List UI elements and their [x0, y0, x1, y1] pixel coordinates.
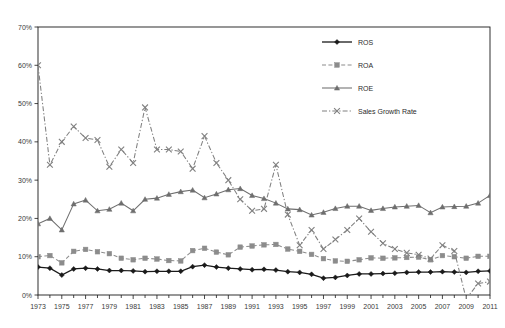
data-point-square [167, 258, 172, 263]
x-axis-tick-label: 1993 [268, 303, 284, 310]
y-axis-tick-label: 70% [18, 24, 32, 31]
x-axis-tick-label: 1983 [149, 303, 165, 310]
data-point-square [95, 249, 100, 254]
y-axis-tick-label: 50% [18, 100, 32, 107]
plot-area-border [38, 27, 490, 295]
data-point-square [274, 242, 279, 247]
data-point-square [404, 255, 409, 260]
x-axis-tick-label: 1999 [339, 303, 355, 310]
x-axis-tick-label: 2005 [411, 303, 427, 310]
line-chart: 0%10%20%30%40%50%60%70%19731975197719791… [0, 0, 505, 328]
data-point-square [59, 261, 64, 266]
data-point-square [71, 249, 76, 254]
legend-label: ROE [358, 85, 374, 92]
x-axis-tick-label: 1987 [197, 303, 213, 310]
x-axis-tick-label: 2009 [458, 303, 474, 310]
x-axis-tick-label: 1979 [102, 303, 118, 310]
legend-label: ROS [358, 39, 374, 46]
x-axis-tick-label: 2011 [482, 303, 497, 310]
x-axis-tick-label: 1991 [244, 303, 260, 310]
y-axis-tick-label: 0% [22, 292, 32, 299]
data-point-square [155, 257, 160, 262]
data-point-square [297, 249, 302, 254]
data-point-square [107, 251, 112, 256]
data-point-square [250, 244, 255, 249]
y-axis-tick-label: 40% [18, 138, 32, 145]
data-point-square [321, 256, 326, 261]
legend-label: ROA [358, 62, 374, 69]
x-axis-tick-label: 2003 [387, 303, 403, 310]
x-axis-tick-label: 1975 [54, 303, 70, 310]
data-point-square [488, 254, 493, 259]
data-point-square [143, 256, 148, 261]
data-point-square [345, 259, 350, 264]
legend-label: Sales Growth Rate [358, 108, 417, 115]
data-point-square [83, 247, 88, 252]
x-axis-tick-label: 1981 [125, 303, 141, 310]
y-axis-tick-label: 20% [18, 215, 32, 222]
y-axis-tick-label: 30% [18, 177, 32, 184]
data-point-square [190, 248, 195, 253]
data-point-square [48, 253, 53, 258]
data-point-square [262, 243, 267, 248]
data-point-square [226, 253, 231, 258]
data-point-square [335, 63, 340, 68]
data-point-square [381, 256, 386, 261]
data-point-square [309, 252, 314, 257]
x-axis-tick-label: 1995 [292, 303, 308, 310]
x-axis-tick-label: 1977 [78, 303, 94, 310]
x-axis-tick-label: 1985 [173, 303, 189, 310]
data-point-square [476, 254, 481, 259]
data-point-square [178, 259, 183, 264]
data-point-square [464, 256, 469, 261]
data-point-square [119, 256, 124, 261]
data-point-square [357, 257, 362, 262]
data-point-square [131, 257, 136, 262]
chart-container: 0%10%20%30%40%50%60%70%19731975197719791… [0, 0, 505, 328]
data-point-square [369, 256, 374, 261]
x-axis-tick-label: 1989 [221, 303, 237, 310]
x-axis-tick-label: 1973 [30, 303, 46, 310]
data-point-square [238, 245, 243, 250]
y-axis-tick-label: 60% [18, 62, 32, 69]
data-point-square [214, 250, 219, 255]
data-point-square [440, 253, 445, 258]
x-axis-tick-label: 2001 [363, 303, 379, 310]
data-point-square [393, 256, 398, 261]
data-point-square [202, 246, 207, 251]
data-point-square [285, 247, 290, 252]
x-axis-tick-label: 2007 [435, 303, 451, 310]
y-axis-tick-label: 10% [18, 253, 32, 260]
data-point-square [333, 259, 338, 264]
x-axis-tick-label: 1997 [316, 303, 332, 310]
